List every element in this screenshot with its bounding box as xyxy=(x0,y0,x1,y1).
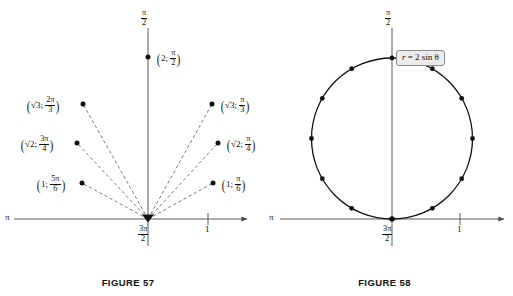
theta-den: 6 xyxy=(50,184,60,194)
theta-den: 4 xyxy=(245,144,251,154)
theta-num: π xyxy=(170,49,176,58)
curve-point-60 xyxy=(430,66,435,71)
point-1-5pi-over-6 xyxy=(80,181,85,186)
axis-label-pi: π xyxy=(269,213,274,222)
theta-num: π xyxy=(235,175,241,184)
equation-relation: = xyxy=(408,52,413,62)
point-label-1-5pi-over-6: (1; 5π6) xyxy=(36,176,65,194)
theta-num: π xyxy=(239,96,245,105)
axis-label-top-num: π xyxy=(385,9,391,18)
curve-point-270-pole xyxy=(389,216,395,222)
curve-point-180 xyxy=(309,136,314,141)
axis-label-bottom-den: 2 xyxy=(382,234,392,244)
figure-57: π 2 3π 2 π 1 (2; π2) (√3; 2π3) (√2; 3π4)… xyxy=(0,0,256,296)
curve-point-0 xyxy=(470,136,475,141)
equation-lhs: r xyxy=(402,52,406,62)
r-value: 1 xyxy=(41,179,46,189)
equation-rhs: 2 sin θ xyxy=(415,52,439,62)
curve-point-30 xyxy=(459,96,464,101)
axis-label-bottom-num: 3π xyxy=(382,225,392,234)
r-value: 1 xyxy=(226,179,231,189)
point-2-pi-over-2 xyxy=(146,55,151,60)
point-label-1-pi-over-6: (1; π6) xyxy=(221,176,246,194)
theta-den: 2 xyxy=(170,58,176,68)
axis-label-bottom-den: 2 xyxy=(138,234,148,244)
point-label-sqrt3-2pi-over-3: (√3; 2π3) xyxy=(26,97,60,115)
point-sqrt2-pi-over-4 xyxy=(216,141,221,146)
r-value: √3 xyxy=(225,100,234,110)
axis-label-pi-over-2: π 2 xyxy=(141,10,147,28)
axis-label-top-num: π xyxy=(141,9,147,18)
curve-point-120 xyxy=(349,66,354,71)
curve-point-90 xyxy=(390,56,395,61)
theta-den: 3 xyxy=(239,105,245,115)
point-label-sqrt2-pi-over-4: (√2; π4) xyxy=(226,136,256,154)
figure-58-caption: FIGURE 58 xyxy=(256,277,513,288)
figure-58: r = 2 sin θ π 2 3π 2 π 1 FIGURE 58 xyxy=(256,0,513,296)
curve-point-150 xyxy=(320,96,325,101)
theta-den: 6 xyxy=(235,184,241,194)
point-label-sqrt3-pi-over-3: (√3; π3) xyxy=(220,97,250,115)
ray-sqrt2-pi-over-4 xyxy=(148,143,218,219)
point-label-2-pi-over-2: (2; π2) xyxy=(156,50,181,68)
axis-label-tick-one: 1 xyxy=(457,225,462,234)
curve-point-300 xyxy=(430,206,435,211)
point-sqrt2-3pi-over-4 xyxy=(75,141,80,146)
theta-num: 5π xyxy=(50,175,60,184)
theta-den: 4 xyxy=(39,144,49,154)
axis-label-3pi-over-2: 3π 2 xyxy=(382,226,392,244)
axis-label-3pi-over-2: 3π 2 xyxy=(138,226,148,244)
ray-sqrt2-3pi-over-4 xyxy=(77,143,148,219)
axis-label-tick-one: 1 xyxy=(205,225,210,234)
figure-57-caption: FIGURE 57 xyxy=(0,277,256,288)
point-1-pi-over-6 xyxy=(211,181,216,186)
r-value: √2 xyxy=(25,139,34,149)
theta-den: 3 xyxy=(45,105,55,115)
figure-58-graph xyxy=(256,0,513,296)
curve-point-330 xyxy=(459,176,464,181)
r-value: √2 xyxy=(231,139,240,149)
axis-label-bottom-num: 3π xyxy=(138,225,148,234)
axis-label-pi: π xyxy=(5,213,10,222)
axis-label-top-den: 2 xyxy=(141,18,147,28)
axis-label-pi-over-2: π 2 xyxy=(385,10,391,28)
axis-label-top-den: 2 xyxy=(385,18,391,28)
point-label-sqrt2-3pi-over-4: (√2; 3π4) xyxy=(20,136,54,154)
point-sqrt3-pi-over-3 xyxy=(210,102,215,107)
theta-num: 2π xyxy=(45,96,55,105)
theta-num: π xyxy=(245,135,251,144)
equation-label: r = 2 sin θ xyxy=(396,50,445,66)
curve-point-240 xyxy=(349,206,354,211)
curve-point-210 xyxy=(320,176,325,181)
r-value: 2 xyxy=(161,53,166,63)
r-value: √3 xyxy=(31,100,40,110)
theta-num: 3π xyxy=(39,135,49,144)
point-sqrt3-2pi-over-3 xyxy=(81,102,86,107)
